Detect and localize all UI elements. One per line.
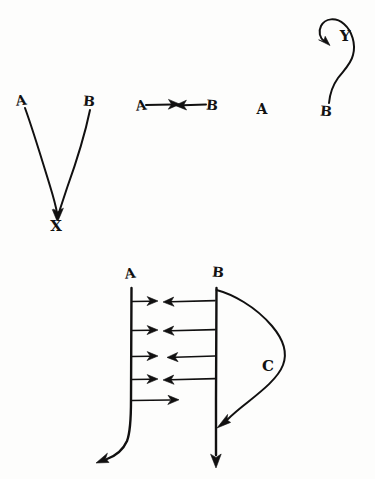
arrowhead-curve-c: [217, 414, 231, 428]
curve-b-to-x: [59, 110, 90, 214]
shaft-b-row-1: [171, 301, 215, 302]
curve-c: [217, 290, 285, 420]
shaft-a-right: [146, 104, 172, 105]
label-converging-target: X: [50, 219, 62, 234]
label-converging-source-right: B: [82, 94, 95, 109]
line-a-vertical: [107, 288, 132, 459]
label-converging-source-left: A: [15, 92, 28, 107]
label-field-curve: C: [262, 359, 274, 374]
shaft-b-row-4: [171, 379, 215, 380]
diagram-canvas: <-- B ============ -->: [0, 0, 375, 479]
shaft-b-row-2: [171, 330, 215, 331]
converging-arrows-group: [25, 108, 90, 221]
label-field-line-right: B: [211, 265, 224, 280]
label-opposing-left: A: [135, 97, 148, 112]
opposing-arrows-group: [146, 99, 206, 110]
diagram-sheet: <-- B ============ -->: [0, 0, 375, 479]
label-opposing-isolated: A: [257, 102, 268, 116]
label-field-line-left: A: [124, 265, 137, 280]
shaft-b-row-3: [175, 356, 215, 357]
line-b-vertical: [216, 288, 217, 455]
label-opposing-right: B: [205, 98, 218, 113]
label-loop-target: Y: [340, 29, 351, 44]
curve-a-to-x: [25, 108, 57, 213]
field-diagram-group: [96, 288, 285, 468]
shaft-b-left: [183, 105, 206, 106]
shaft-a-row-5: [132, 400, 170, 401]
label-loop-start: B: [319, 104, 332, 119]
